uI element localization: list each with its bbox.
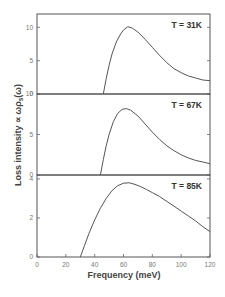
loss-intensity-figure: 0510T = 31K0510T = 67K024T = 85K 0204060… [0,0,225,297]
temperature-label: T = 31K [172,20,203,30]
y-tick-label: 5 [29,131,33,138]
x-tick-label: 100 [176,261,187,268]
panel-1: 0510T = 31K [26,14,210,97]
x-tick-label: 120 [205,261,216,268]
x-tick-label: 40 [91,261,99,268]
y-tick-label: 4 [29,175,33,182]
y-tick-label: 0 [29,253,33,260]
loss-curve-3 [80,183,210,257]
temperature-label: T = 85K [172,181,203,191]
temperature-label: T = 67K [172,100,203,110]
y-tick-label: 2 [29,214,33,221]
x-axis-title: Frequency (meV) [87,270,160,280]
panels-group: 0510T = 31K0510T = 67K024T = 85K [26,14,210,260]
panel-2: 0510T = 67K [26,90,210,178]
y-tick-label: 10 [26,24,34,31]
x-tick-label: 20 [62,261,70,268]
y-tick-label: 10 [26,90,34,97]
y-axis-title: Loss intensity ∝ ωρs(ω) [13,84,24,186]
y-axis-title-tail: (ω) [13,84,23,98]
x-tick-label: 0 [35,261,39,268]
loss-curve-1 [103,27,210,94]
panel-3: 024T = 85K [29,175,210,260]
loss-curve-2 [100,109,210,175]
y-axis-title-main: Loss intensity ∝ ωρ [13,101,23,186]
x-tick-label: 60 [120,261,128,268]
x-axis: 020406080100120 [35,254,216,268]
x-tick-label: 80 [149,261,157,268]
y-tick-label: 5 [29,57,33,64]
